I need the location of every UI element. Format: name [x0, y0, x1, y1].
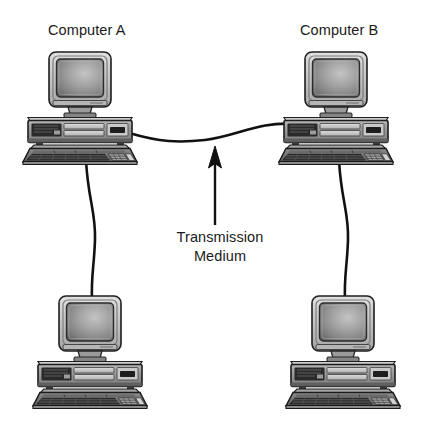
computer-b-top[interactable]: [279, 52, 393, 165]
cable-a-to-b: [129, 124, 296, 142]
diagram-canvas: [0, 0, 432, 421]
transmission-medium-arrow: [209, 146, 222, 225]
label-transmission-medium: Transmission Medium: [160, 228, 280, 266]
transmission-medium-line2: Medium: [194, 248, 246, 264]
cable-a-to-lower-left: [86, 160, 95, 300]
network-diagram: Computer A Computer B Transmission Mediu…: [0, 0, 432, 421]
transmission-medium-line1: Transmission: [177, 229, 264, 245]
computer-a-top[interactable]: [23, 52, 137, 165]
label-computer-a: Computer A: [48, 22, 126, 38]
label-computer-b: Computer B: [300, 22, 378, 38]
computer-b-bottom[interactable]: [286, 296, 400, 409]
cable-b-to-lower-right: [339, 160, 348, 300]
computer-a-bottom[interactable]: [33, 296, 147, 409]
